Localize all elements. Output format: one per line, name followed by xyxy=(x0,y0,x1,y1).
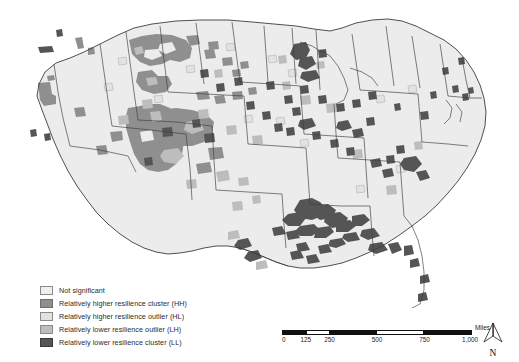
legend-label-lh: Relatively lower resilience outlier (LH) xyxy=(59,325,181,334)
scale-seg-500-750 xyxy=(377,331,424,334)
map-figure: Not significant Relatively higher resili… xyxy=(0,0,519,362)
legend-swatch-hh xyxy=(40,299,53,308)
scale-seg-250-500 xyxy=(330,331,377,334)
legend-item-lh[interactable]: Relatively lower resilience outlier (LH) xyxy=(40,323,187,336)
scale-tick-250: 250 xyxy=(324,336,335,343)
legend-swatch-ns xyxy=(40,286,53,295)
scale-tick-0: 0 xyxy=(282,336,286,343)
north-arrow-label: N xyxy=(480,348,506,358)
scale-tick-750: 750 xyxy=(419,336,430,343)
legend-swatch-hl xyxy=(40,312,53,321)
legend-swatch-lh xyxy=(40,325,53,334)
legend-label-hl: Relatively higher resilience outlier (HL… xyxy=(59,312,184,321)
cluster-legend: Not significant Relatively higher resili… xyxy=(40,284,187,349)
scale-tick-1000: 1,000 xyxy=(462,336,478,343)
north-arrow: N xyxy=(480,322,506,358)
scale-seg-0-125 xyxy=(283,331,307,334)
scale-seg-750-1000 xyxy=(424,331,471,334)
scale-bar-track xyxy=(282,330,472,335)
north-arrow-icon xyxy=(480,322,506,344)
legend-label-hh: Relatively higher resilience cluster (HH… xyxy=(59,299,187,308)
scale-tick-500: 500 xyxy=(372,336,383,343)
legend-label-ll: Relatively lower resilience cluster (LL) xyxy=(59,338,182,347)
scale-seg-125-250 xyxy=(307,331,331,334)
legend-label-ns: Not significant xyxy=(59,286,105,295)
scale-bar: 0 125 250 500 750 1,000 Miles xyxy=(282,330,472,347)
legend-swatch-ll xyxy=(40,338,53,347)
legend-item-hh[interactable]: Relatively higher resilience cluster (HH… xyxy=(40,297,187,310)
scale-bar-ticks: 0 125 250 500 750 1,000 xyxy=(282,336,472,347)
legend-item-hl[interactable]: Relatively higher resilience outlier (HL… xyxy=(40,310,187,323)
legend-item-ll[interactable]: Relatively lower resilience cluster (LL) xyxy=(40,336,187,349)
legend-item-ns[interactable]: Not significant xyxy=(40,284,187,297)
scale-tick-125: 125 xyxy=(300,336,311,343)
